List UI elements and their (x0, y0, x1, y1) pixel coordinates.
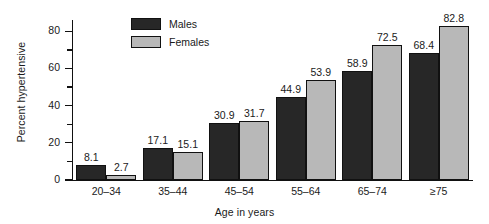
bar-value-label: 68.4 (404, 39, 444, 51)
x-axis-category-label: ≥75 (406, 185, 473, 197)
y-tick-label: 60 (20, 61, 60, 73)
bar-females (106, 175, 136, 180)
bar-value-label: 31.7 (234, 107, 274, 119)
bar-females (439, 26, 469, 180)
x-axis-category-label: 35–44 (140, 185, 207, 197)
bar-value-label: 82.8 (434, 12, 474, 24)
bar-value-label: 72.5 (367, 31, 407, 43)
bar-males (143, 148, 173, 180)
bar-value-label: 44.9 (271, 83, 311, 95)
y-tick-major (65, 179, 73, 180)
x-axis-category-label: 55–64 (273, 185, 340, 197)
bar-females (372, 45, 402, 180)
legend-item-females: Females (131, 34, 209, 49)
bar-value-label: 2.7 (101, 161, 141, 173)
bar-males (409, 53, 439, 180)
bar-chart: Percent hypertensive 020406080 8.12.717.… (0, 0, 489, 224)
x-axis-title: Age in years (0, 206, 489, 218)
y-tick-major (65, 142, 73, 143)
bar-females (306, 80, 336, 180)
bar-value-label: 53.9 (301, 66, 341, 78)
bar-males (276, 97, 306, 180)
legend-item-males: Males (131, 16, 209, 31)
y-tick-label: 80 (20, 24, 60, 36)
legend-label-females: Females (169, 36, 209, 48)
y-tick-label: 20 (20, 136, 60, 148)
bar-females (239, 121, 269, 180)
bar-value-label: 58.9 (337, 57, 377, 69)
chart-legend: Males Females (131, 16, 209, 52)
y-tick-label: 0 (20, 173, 60, 185)
legend-label-males: Males (169, 18, 197, 30)
y-tick-major (65, 105, 73, 106)
legend-swatch-females-icon (131, 36, 161, 48)
bar-value-label: 15.1 (168, 138, 208, 150)
bar-males (342, 71, 372, 180)
x-axis-category-label: 65–74 (339, 185, 406, 197)
y-tick-major (65, 68, 73, 69)
legend-swatch-males-icon (131, 18, 161, 30)
x-axis-category-label: 20–34 (73, 185, 140, 197)
bar-females (173, 152, 203, 180)
bar-males (209, 123, 239, 180)
y-tick-label: 40 (20, 99, 60, 111)
y-tick-major (65, 31, 73, 32)
x-axis-category-label: 45–54 (206, 185, 273, 197)
